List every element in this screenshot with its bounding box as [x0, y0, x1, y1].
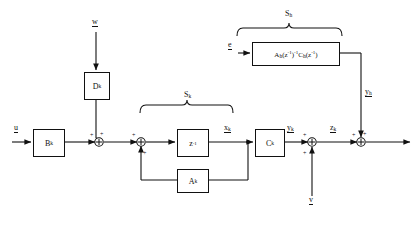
- signal-label-u-left: u: [14, 124, 18, 132]
- sign-sum2-bottom: +: [143, 150, 146, 156]
- brace-label-Sh: Sh: [285, 9, 292, 18]
- state-tap-node: [246, 140, 250, 144]
- block-Sh-transfer-function[interactable]: Ah(z-1)-1Ch(z-1): [252, 42, 340, 66]
- block-Ak-sub: k: [195, 178, 198, 184]
- block-Bk-sub: k: [50, 140, 53, 146]
- brace-Sk: [140, 100, 233, 113]
- signal-label-v: v: [309, 196, 313, 204]
- sign-sum3-left: +: [303, 132, 306, 138]
- sign-sum3-bottom: +: [303, 150, 306, 156]
- sign-sum4-left: +: [352, 132, 355, 138]
- signal-label-e: e: [228, 41, 232, 49]
- sign-sum1-top: +: [100, 131, 103, 137]
- block-unit-delay[interactable]: z-1: [177, 129, 209, 157]
- block-diagram-canvas: Bk Dk z-1 Ak Ck Ah(z-1)-1Ch(z-1) u w e v…: [0, 0, 420, 234]
- sign-sum4-top: +: [363, 131, 366, 137]
- sign-sum2-left: +: [132, 132, 135, 138]
- block-z-exponent: -1: [193, 141, 197, 146]
- signal-label-zk: zk: [330, 124, 336, 133]
- block-Dk[interactable]: Dk: [84, 72, 110, 100]
- signal-label-state-xk: xk: [224, 124, 231, 133]
- brace-Sh: [237, 23, 342, 36]
- block-Bk[interactable]: Bk: [33, 129, 65, 157]
- block-Dk-sub: k: [99, 83, 102, 89]
- sign-sum1-left: +: [90, 132, 93, 138]
- brace-label-Sk: Sk: [184, 90, 191, 99]
- signal-label-w-top: w: [92, 18, 98, 26]
- diagram-wires: [0, 0, 420, 234]
- block-Ak[interactable]: Ak: [177, 169, 209, 193]
- block-Ck-sub: k: [271, 140, 274, 146]
- block-Sh-label: Ah(z-1)-1Ch(z-1): [274, 50, 317, 59]
- signal-label-yk: yk: [287, 124, 294, 133]
- block-Ck[interactable]: Ck: [255, 129, 285, 157]
- signal-label-yh: yh: [365, 88, 372, 97]
